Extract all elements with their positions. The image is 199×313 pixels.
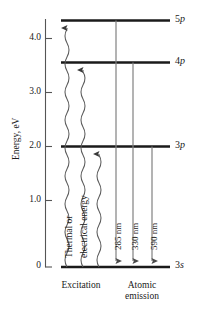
axis-tick-label-2: 2.0 xyxy=(12,141,41,151)
caption-emission-line2: emission xyxy=(113,292,171,302)
excitation-arrow-3p xyxy=(97,154,101,267)
level-label-3s-orbital: s xyxy=(180,259,184,270)
level-label-3p-orbital: p xyxy=(180,139,185,150)
level-label-5p: 5p xyxy=(175,14,185,25)
axis-tick-label-1: 1.0 xyxy=(12,195,41,205)
axis-ticks xyxy=(46,39,53,268)
energy-axis-title: Energy, eV xyxy=(12,118,22,160)
level-label-5p-orbital: p xyxy=(180,13,185,24)
caption-excitation: Excitation xyxy=(52,281,110,291)
level-label-4p-orbital: p xyxy=(180,55,185,66)
level-label-3s: 3s xyxy=(175,260,184,271)
caption-emission-line1: Atomic xyxy=(113,281,171,291)
energy-level-diagram: Energy, eV 4.0 3.0 2.0 1.0 0 5p 4p 3p 3s… xyxy=(0,0,199,313)
level-label-3p: 3p xyxy=(175,140,185,151)
emission-wavelength-590nm: 590 nm xyxy=(150,223,159,250)
axis-tick-label-0: 0 xyxy=(12,261,41,271)
excitation-label-line1: Thermal or xyxy=(65,216,75,258)
axis-tick-label-4: 4.0 xyxy=(12,33,41,43)
axis-tick-label-3: 3.0 xyxy=(12,87,41,97)
emission-wavelength-285nm: 285 nm xyxy=(114,223,123,250)
level-label-4p: 4p xyxy=(175,56,185,67)
emission-wavelength-330nm: 330 nm xyxy=(131,223,140,250)
excitation-label-line2: electrical energy xyxy=(80,195,90,258)
